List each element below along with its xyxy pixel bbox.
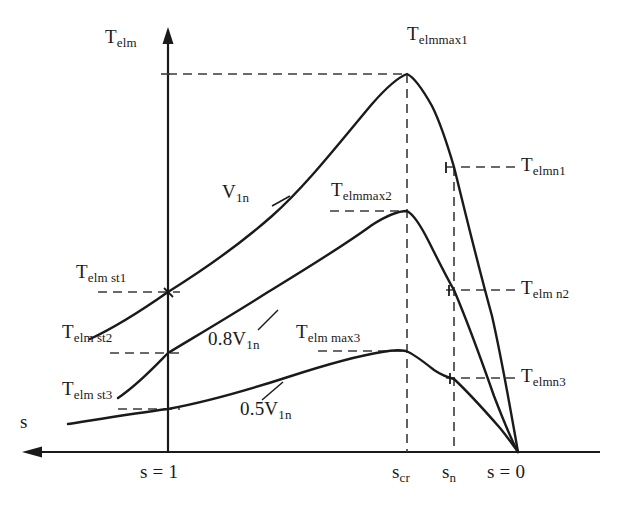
label-voltage-08v1n: 0.8V1n xyxy=(208,329,259,351)
leader-lines-group xyxy=(258,196,290,400)
x-tick-s-cr: scr xyxy=(392,462,410,484)
label-voltage-v1n: V1n xyxy=(222,182,249,204)
x-axis-label: s xyxy=(20,412,28,431)
label-t-elm-st3: Telm st3 xyxy=(62,379,112,401)
x-axis-arrowhead xyxy=(22,447,42,458)
torque-slip-diagram: Telm s Telmmax1 Telmmax2 Telm max3 Telm … xyxy=(0,0,642,514)
label-t-elm-n3: Telmn3 xyxy=(521,366,566,388)
label-t-elm-st2: Telm st2 xyxy=(62,322,112,344)
x-tick-s-n: sn xyxy=(442,462,456,484)
leader-08v1n xyxy=(258,310,278,330)
label-t-elm-st1: Telm st1 xyxy=(76,262,126,284)
diagram-canvas xyxy=(0,0,642,514)
x-tick-s-equals-0: s = 0 xyxy=(487,462,525,481)
reference-lines-group xyxy=(98,74,516,452)
label-t-elm-max2: Telmmax2 xyxy=(331,180,392,202)
y-axis-label: Telm xyxy=(105,27,137,49)
label-t-elm-max1: Telmmax1 xyxy=(407,24,468,46)
y-axis-arrowhead xyxy=(163,27,174,44)
label-t-elm-max3: Telm max3 xyxy=(296,322,360,344)
label-t-elm-n2: Telm n2 xyxy=(521,278,569,300)
x-tick-s-equals-1: s = 1 xyxy=(140,462,178,481)
label-t-elm-n1: Telmn1 xyxy=(521,155,566,177)
curve-05v1n xyxy=(68,350,518,452)
label-voltage-05v1n: 0.5V1n xyxy=(240,399,291,421)
